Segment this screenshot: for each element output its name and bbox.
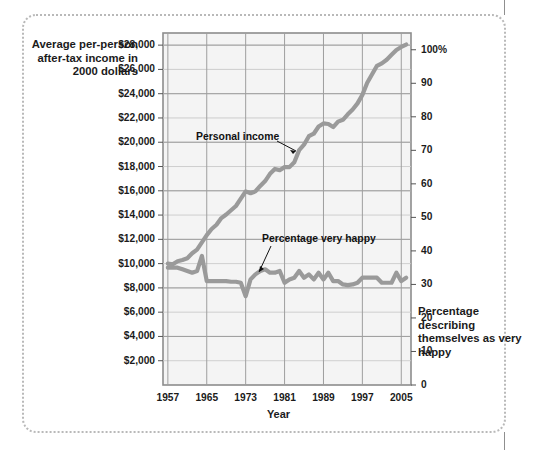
y2-axis-tick-label: 80 [421,111,432,122]
y-axis-tick-label: $6,000 [93,306,155,317]
x-axis-title-text: Year [267,408,290,420]
annotation-percentage-very-happy: Percentage very happy [262,233,376,244]
y2-axis-tick-label: 60 [421,178,432,189]
x-axis-tick-label: 1965 [185,392,229,403]
y2-axis-tick-label: 30 [421,278,432,289]
y-axis-tick-label: $4,000 [93,330,155,341]
y-axis-tick-label: $20,000 [93,136,155,147]
x-axis-tick-label: 1973 [224,392,268,403]
y2-axis-tick-label: 0 [421,379,427,390]
y2-axis-tick-label: 50 [421,211,432,222]
y2-axis-tick-label: 70 [421,144,432,155]
y-axis-tick-label: $14,000 [93,209,155,220]
x-axis-title: Year [0,408,535,420]
y2-axis-tick-label: 100% [421,44,447,55]
y-axis-tick-label: $22,000 [93,112,155,123]
x-axis-tick-label: 1989 [301,392,345,403]
y-axis-tick-label: $16,000 [93,185,155,196]
y2-axis-tick-label: 40 [421,245,432,256]
y-axis-tick-label: $26,000 [93,63,155,74]
figure-container: Average per-person after-tax income in 2… [0,0,535,451]
y2-axis-tick-label: 90 [421,77,432,88]
y-axis-tick-label: $2,000 [93,355,155,366]
y-axis-tick-label: $12,000 [93,233,155,244]
y2-axis-tick-label: 10 [421,345,432,356]
y-axis-tick-label: $18,000 [93,161,155,172]
y-axis-tick-label: $28,000 [93,39,155,50]
x-axis-tick-label: 1997 [340,392,384,403]
y2-axis-tick-label: 20 [421,312,432,323]
y-axis-tick-label: $8,000 [93,282,155,293]
plot-background [163,33,411,385]
y-axis-tick-label: $10,000 [93,258,155,269]
x-axis-tick-label: 2005 [379,392,423,403]
annotation-personal-income: Personal income [196,131,279,142]
chart-plot-area [0,0,535,451]
x-axis-tick-label: 1957 [146,392,190,403]
y-axis-tick-label: $24,000 [93,88,155,99]
x-axis-tick-label: 1981 [263,392,307,403]
